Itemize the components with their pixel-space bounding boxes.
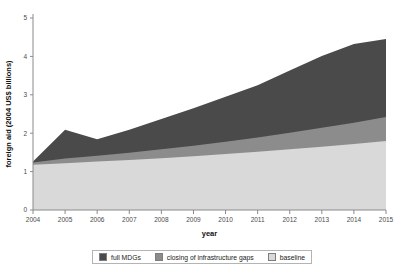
x-tick-label: 2006 — [90, 216, 105, 223]
x-tick-label: 2012 — [282, 216, 297, 223]
y-tick-label: 5 — [23, 14, 27, 21]
legend-item-infrastructure-gaps: closing of infrastructure gaps — [155, 253, 254, 261]
x-tick-label: 2013 — [315, 216, 330, 223]
y-tick-label: 4 — [23, 53, 27, 60]
x-tick-label: 2014 — [347, 216, 362, 223]
x-tick-label: 2010 — [218, 216, 233, 223]
legend-swatch-baseline — [268, 253, 276, 261]
x-axis-title: year — [202, 229, 218, 238]
y-tick-label: 3 — [23, 91, 27, 98]
x-tick-label: 2007 — [122, 216, 137, 223]
legend-swatch-infrastructure-gaps — [155, 253, 163, 261]
x-tick-label: 2005 — [58, 216, 73, 223]
legend-swatch-full-mdgs — [99, 253, 107, 261]
legend-item-full-mdgs: full MDGs — [99, 253, 141, 261]
y-tick-label: 2 — [23, 130, 27, 137]
y-tick-label: 0 — [23, 206, 27, 213]
legend-label-infrastructure-gaps: closing of infrastructure gaps — [167, 254, 254, 261]
x-tick-label: 2015 — [379, 216, 394, 223]
x-tick-label: 2004 — [26, 216, 41, 223]
x-tick-label: 2011 — [251, 216, 265, 223]
chart-legend: full MDGs closing of infrastructure gaps… — [92, 250, 312, 264]
legend-item-baseline: baseline — [268, 253, 305, 261]
area-chart: 0123452004200520062007200820092010201120… — [0, 0, 404, 280]
legend-label-baseline: baseline — [280, 254, 305, 261]
x-tick-label: 2009 — [186, 216, 201, 223]
legend-label-full-mdgs: full MDGs — [111, 254, 141, 261]
x-tick-label: 2008 — [154, 216, 169, 223]
y-tick-label: 1 — [23, 168, 27, 175]
chart-container: 0123452004200520062007200820092010201120… — [0, 0, 404, 280]
y-axis-title: foreign aid (2004 US$ billions) — [4, 60, 13, 168]
